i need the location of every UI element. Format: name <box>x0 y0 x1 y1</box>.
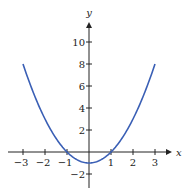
x-tick-label: −3 <box>14 157 29 168</box>
x-axis-arrow-icon <box>166 149 172 155</box>
y-axis-label: y <box>85 7 92 18</box>
ticks: −3−2−1123108642−2 <box>14 37 159 180</box>
y-tick-label: 8 <box>79 59 85 70</box>
x-tick-label: 3 <box>152 157 158 168</box>
y-tick-label: 2 <box>79 125 85 136</box>
y-tick-label: 10 <box>72 37 85 48</box>
y-tick-label: 6 <box>79 81 85 92</box>
parabola-chart: −3−2−1123108642−2 x y <box>0 0 189 196</box>
x-tick-label: 1 <box>108 157 114 168</box>
y-tick-label: 4 <box>79 103 85 114</box>
y-tick-label: −2 <box>70 169 85 180</box>
y-axis-arrow-icon <box>86 22 92 28</box>
x-tick-label: −2 <box>36 157 51 168</box>
x-tick-label: 2 <box>130 157 136 168</box>
x-tick-label: −1 <box>58 157 73 168</box>
x-axis-label: x <box>176 147 182 158</box>
